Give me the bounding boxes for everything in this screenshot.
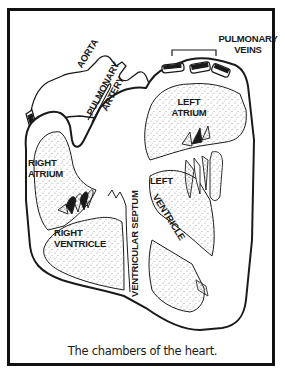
label-text: RIGHT	[54, 227, 106, 238]
label-ventricular-septum: VENTRICULAR SEPTUM	[129, 190, 140, 297]
heart-diagram	[0, 0, 285, 373]
label-text: VENTRICULAR SEPTUM	[129, 190, 140, 297]
label-text: PULMONARY	[218, 33, 278, 44]
label-right-ventricle: RIGHT VENTRICLE	[54, 227, 106, 249]
label-text: ATRIUM	[166, 107, 212, 118]
label-text: LEFT	[166, 96, 212, 107]
label-text: VEINS	[218, 44, 278, 55]
figure-caption: The chambers of the heart.	[0, 344, 285, 358]
label-text: ATRIUM	[28, 168, 63, 179]
label-pulmonary-veins: PULMONARY VEINS	[218, 33, 278, 55]
label-left-ventricle-1: LEFT	[150, 175, 173, 186]
label-text: RIGHT	[28, 157, 63, 168]
label-left-atrium: LEFT ATRIUM	[166, 96, 212, 118]
label-right-atrium: RIGHT ATRIUM	[28, 157, 63, 179]
label-text: VENTRICLE	[54, 238, 106, 249]
label-text: LEFT	[150, 175, 173, 186]
